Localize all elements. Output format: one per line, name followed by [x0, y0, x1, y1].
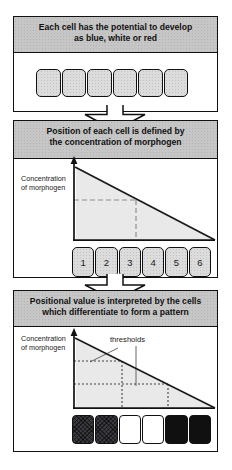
uncommitted-cell [164, 69, 189, 97]
uncommitted-cell [36, 69, 61, 97]
panel-potential-title: Each cell has the potential to develop a… [14, 17, 217, 53]
pattern-cell-white [142, 415, 164, 444]
panel-interpretation: Positional value is interpreted by the c… [13, 290, 218, 452]
y-axis-arrowhead-icon [71, 328, 78, 336]
pattern-cell-white [119, 415, 141, 444]
uncommitted-cell-row [36, 69, 188, 97]
numbered-cell-4: 4 [142, 247, 164, 277]
panel-potential-title-line2: as blue, white or red [16, 33, 215, 44]
uncommitted-cell [62, 69, 87, 97]
numbered-cell-1: 1 [72, 247, 94, 277]
pattern-cell-blue [95, 415, 117, 444]
pattern-cell-red [189, 415, 211, 444]
uncommitted-cell [113, 69, 138, 97]
pattern-cell-row [72, 415, 211, 444]
y-axis-arrowhead-icon [71, 156, 78, 164]
uncommitted-cell [138, 69, 163, 97]
panel-potential-title-line1: Each cell has the potential to develop [16, 22, 215, 33]
numbered-cell-3: 3 [119, 247, 141, 277]
panel-position: Position of each cell is defined by the … [13, 120, 218, 278]
uncommitted-cell [87, 69, 112, 97]
pattern-cell-blue [72, 415, 94, 444]
pattern-cell-red [165, 415, 187, 444]
panel-potential: Each cell has the potential to develop a… [13, 16, 218, 112]
numbered-cell-2: 2 [95, 247, 117, 277]
numbered-cell-row: 1 2 3 4 5 6 [72, 247, 211, 277]
numbered-cell-5: 5 [165, 247, 187, 277]
french-flag-diagram: Each cell has the potential to develop a… [0, 0, 232, 470]
numbered-cell-6: 6 [189, 247, 211, 277]
